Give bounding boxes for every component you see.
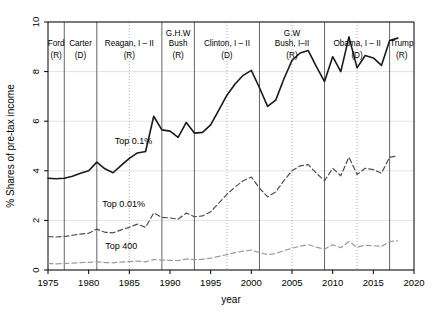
series-label-top400: Top 400	[105, 241, 137, 251]
x-tick-label-2020: 2020	[403, 277, 424, 288]
chart-figure: 0246810197519801985199019952000200520102…	[0, 0, 430, 316]
x-tick-label-1980: 1980	[78, 277, 99, 288]
x-tick-label-2015: 2015	[363, 277, 384, 288]
y-axis-title: % Shares of pre-tax income	[5, 84, 16, 208]
x-tick-label-1975: 1975	[37, 277, 58, 288]
president-party-gwbushiii: (R)	[286, 51, 298, 60]
x-tick-label-2005: 2005	[281, 277, 302, 288]
president-party-carter: (D)	[75, 51, 87, 60]
president-name-obamaiii: Obama, I – II	[333, 39, 380, 48]
president-party-reaganiii: (R)	[124, 51, 136, 60]
president-name-ghwbush: G.H.W	[166, 29, 191, 38]
president-name-gwbushiii: G.W	[284, 29, 301, 38]
president-party-ford: (R)	[50, 51, 62, 60]
series-label-top001: Top 0.01%	[102, 199, 145, 209]
y-tick-label-6: 6	[30, 119, 41, 124]
president-name-ford: Ford	[48, 39, 65, 48]
income-shares-line-chart: 0246810197519801985199019952000200520102…	[0, 0, 430, 316]
president-name-ghwbush: Bush	[169, 39, 188, 48]
x-tick-label-2010: 2010	[322, 277, 343, 288]
y-tick-label-0: 0	[30, 267, 41, 272]
president-name-trump: Trump	[390, 39, 414, 48]
y-tick-label-10: 10	[30, 17, 41, 28]
president-party-clintoniii: (D)	[221, 51, 233, 60]
y-tick-label-4: 4	[30, 168, 41, 173]
x-axis-title: year	[221, 294, 241, 305]
x-tick-label-1990: 1990	[159, 277, 180, 288]
president-party-ghwbush: (R)	[172, 51, 184, 60]
president-name-reaganiii: Reagan, I – II	[105, 39, 154, 48]
series-label-top01: Top 0.1%	[115, 136, 153, 146]
president-party-trump: (R)	[396, 51, 408, 60]
x-tick-label-2000: 2000	[241, 277, 262, 288]
x-tick-label-1995: 1995	[200, 277, 221, 288]
president-name-gwbushiii: Bush, I–II	[275, 39, 310, 48]
president-party-obamaiii: (D)	[351, 51, 363, 60]
y-tick-label-2: 2	[30, 218, 41, 223]
president-name-carter: Carter	[69, 39, 92, 48]
president-name-clintoniii: Clinton, I – II	[204, 39, 250, 48]
y-tick-label-8: 8	[30, 69, 41, 74]
x-tick-label-1985: 1985	[119, 277, 140, 288]
